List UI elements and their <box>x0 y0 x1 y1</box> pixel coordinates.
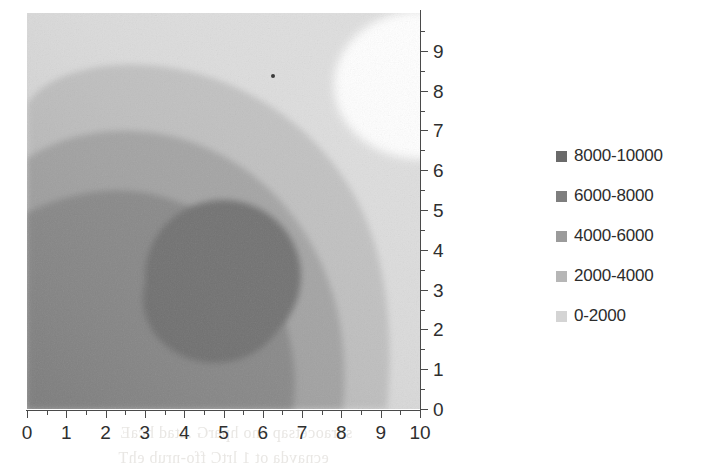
y-tick-label-6: 6 <box>433 161 444 180</box>
x-tick-8 <box>341 411 342 418</box>
x-tick-2 <box>106 411 107 418</box>
legend-swatch-icon <box>556 151 567 162</box>
legend-item-2000-4000[interactable]: 2000-4000 <box>556 256 696 296</box>
y-minor-tick <box>421 111 425 112</box>
scan-speck-icon <box>271 74 275 78</box>
x-tick-1 <box>66 411 67 418</box>
legend-label: 8000-10000 <box>574 146 663 166</box>
y-tick-2 <box>421 329 428 330</box>
legend-item-6000-8000[interactable]: 6000-8000 <box>556 176 696 216</box>
y-tick-9 <box>421 51 428 52</box>
y-minor-tick <box>421 31 425 32</box>
y-tick-label-0: 0 <box>433 400 444 419</box>
x-tick-label-4: 4 <box>179 423 190 442</box>
legend: 8000-100006000-80004000-60002000-40000-2… <box>556 136 696 336</box>
legend-swatch-icon <box>556 191 567 202</box>
x-minor-tick <box>400 411 401 415</box>
y-tick-label-8: 8 <box>433 81 444 100</box>
x-tick-4 <box>184 411 185 418</box>
x-minor-tick <box>125 411 126 415</box>
y-tick-label-1: 1 <box>433 360 444 379</box>
legend-label: 2000-4000 <box>574 266 654 286</box>
x-tick-9 <box>381 411 382 418</box>
x-tick-0 <box>27 411 28 418</box>
x-minor-tick <box>165 411 166 415</box>
heatmap-surface <box>27 13 420 409</box>
y-tick-4 <box>421 250 428 251</box>
x-minor-tick <box>86 411 87 415</box>
x-minor-tick <box>243 411 244 415</box>
x-minor-tick <box>204 411 205 415</box>
x-minor-tick <box>361 411 362 415</box>
y-tick-5 <box>421 210 428 211</box>
y-minor-tick <box>421 230 425 231</box>
x-tick-label-6: 6 <box>258 423 269 442</box>
x-tick-label-0: 0 <box>22 423 33 442</box>
legend-label: 6000-8000 <box>574 186 654 206</box>
y-tick-label-2: 2 <box>433 320 444 339</box>
x-tick-label-2: 2 <box>100 423 111 442</box>
y-tick-label-3: 3 <box>433 280 444 299</box>
plot-area <box>27 13 420 409</box>
x-minor-tick <box>282 411 283 415</box>
x-tick-label-5: 5 <box>218 423 229 442</box>
y-tick-0 <box>421 409 428 410</box>
y-minor-tick <box>421 270 425 271</box>
x-tick-label-3: 3 <box>140 423 151 442</box>
legend-swatch-icon <box>556 231 567 242</box>
y-tick-label-5: 5 <box>433 201 444 220</box>
y-tick-label-4: 4 <box>433 240 444 259</box>
legend-label: 4000-6000 <box>574 226 654 246</box>
x-tick-label-7: 7 <box>297 423 308 442</box>
x-tick-label-8: 8 <box>336 423 347 442</box>
y-tick-6 <box>421 170 428 171</box>
y-minor-tick <box>421 310 425 311</box>
y-tick-8 <box>421 91 428 92</box>
legend-swatch-icon <box>556 271 567 282</box>
y-tick-3 <box>421 290 428 291</box>
legend-item-4000-6000[interactable]: 4000-6000 <box>556 216 696 256</box>
legend-swatch-icon <box>556 311 567 322</box>
y-minor-tick <box>421 190 425 191</box>
x-tick-6 <box>263 411 264 418</box>
x-tick-10 <box>420 411 421 418</box>
x-tick-label-9: 9 <box>375 423 386 442</box>
y-tick-label-9: 9 <box>433 41 444 60</box>
y-tick-7 <box>421 130 428 131</box>
y-minor-tick <box>421 71 425 72</box>
x-minor-tick <box>47 411 48 415</box>
contour-chart-figure: 0123456789 012345678910 8000-100006000-8… <box>0 0 709 473</box>
x-tick-3 <box>145 411 146 418</box>
x-minor-tick <box>322 411 323 415</box>
legend-label: 0-2000 <box>574 306 626 326</box>
legend-item-8000-10000[interactable]: 8000-10000 <box>556 136 696 176</box>
legend-item-0-2000[interactable]: 0-2000 <box>556 296 696 336</box>
y-minor-tick <box>421 150 425 151</box>
x-tick-5 <box>224 411 225 418</box>
y-tick-label-7: 7 <box>433 121 444 140</box>
x-tick-label-1: 1 <box>61 423 72 442</box>
scan-grain <box>27 13 420 409</box>
y-minor-tick <box>421 389 425 390</box>
y-minor-tick <box>421 349 425 350</box>
x-tick-7 <box>302 411 303 418</box>
x-tick-label-10: 10 <box>409 423 430 442</box>
y-tick-1 <box>421 369 428 370</box>
